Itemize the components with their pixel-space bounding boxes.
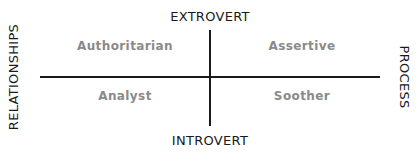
axis-label-top: EXTROVERT — [170, 9, 250, 24]
axis-label-bottom: INTROVERT — [172, 133, 248, 148]
axis-label-right: PROCESS — [397, 46, 412, 109]
quadrant-label-top-right: Assertive — [268, 39, 335, 53]
axis-label-left: RELATIONSHIPS — [6, 24, 21, 130]
vertical-axis-line — [209, 30, 211, 126]
quadrant-label-bottom-right: Soother — [274, 89, 330, 103]
quadrant-label-bottom-left: Analyst — [98, 89, 152, 103]
quadrant-label-top-left: Authoritarian — [77, 39, 173, 53]
